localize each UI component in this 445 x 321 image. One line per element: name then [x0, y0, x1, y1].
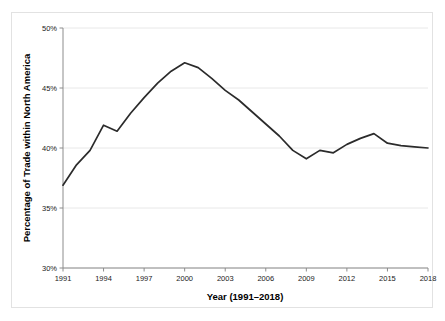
y-tick-label: 45% [42, 84, 57, 93]
x-axis-tick-labels: 1991199419972000200320062009201220152018 [55, 274, 437, 283]
gridlines [63, 28, 428, 268]
x-tick-label: 1997 [136, 274, 153, 283]
x-tick-label: 2000 [176, 274, 193, 283]
y-tick-marks [60, 28, 64, 268]
x-tick-label: 1991 [55, 274, 72, 283]
chart-figure: 30%35%40%45%50% 199119941997200020032006… [0, 0, 445, 321]
y-tick-label: 40% [42, 144, 57, 153]
x-tick-label: 2009 [298, 274, 315, 283]
y-tick-label: 30% [42, 264, 57, 273]
y-tick-label: 35% [42, 204, 57, 213]
y-axis-tick-labels: 30%35%40%45%50% [42, 24, 57, 273]
x-tick-label: 2012 [339, 274, 356, 283]
y-axis-title: Percentage of Trade within North America [21, 53, 32, 242]
data-series-line [63, 63, 428, 185]
x-tick-marks [63, 268, 428, 272]
x-axis-title: Year (1991–2018) [207, 291, 284, 302]
x-tick-label: 2006 [257, 274, 274, 283]
line-chart: 30%35%40%45%50% 199119941997200020032006… [0, 0, 445, 321]
x-tick-label: 1994 [95, 274, 112, 283]
y-tick-label: 50% [42, 24, 57, 33]
x-tick-label: 2015 [379, 274, 396, 283]
x-tick-label: 2018 [420, 274, 437, 283]
x-tick-label: 2003 [217, 274, 234, 283]
